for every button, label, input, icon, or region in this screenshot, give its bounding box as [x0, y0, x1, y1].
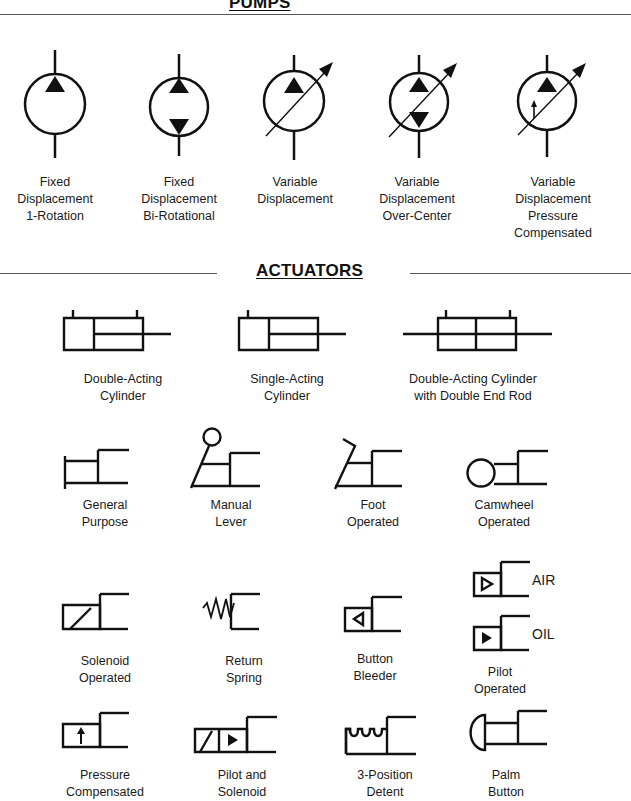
actuators-divider-left — [0, 273, 217, 274]
pump-label: Fixed Displacement 1-Rotation — [0, 174, 110, 225]
manual-lever-icon — [188, 427, 268, 492]
foot-operated-icon — [333, 437, 413, 492]
double-end-rod-cylinder-icon — [400, 306, 560, 356]
palm-button-icon — [468, 710, 558, 755]
operator-label: Pilot Operated — [445, 664, 555, 698]
operator-label: Return Spring — [189, 653, 299, 687]
variable-displacement-pump-icon — [262, 55, 342, 165]
solenoid-icon — [60, 591, 140, 633]
operator-label: Button Bleeder — [320, 651, 430, 685]
cylinder-label: Double-Acting Cylinder with Double End R… — [393, 371, 553, 405]
operator-label: Palm Button — [451, 767, 561, 801]
pilot-operated-oil-icon — [471, 613, 541, 655]
general-purpose-icon — [62, 447, 142, 492]
pressure-compensated-icon — [60, 710, 140, 752]
operator-label: Solenoid Operated — [50, 653, 160, 687]
operator-label: Camwheel Operated — [449, 497, 559, 531]
operator-label: Pressure Compensated — [50, 767, 160, 801]
bidirectional-pump-icon — [144, 54, 224, 164]
return-spring-icon — [201, 591, 271, 633]
actuators-title: ACTUATORS — [256, 261, 363, 281]
cylinder-label: Double-Acting Cylinder — [58, 371, 188, 405]
operator-label: General Purpose — [50, 497, 160, 531]
fixed-displacement-pump-icon — [20, 50, 100, 160]
pump-label: Fixed Displacement Bi-Rotational — [124, 174, 234, 225]
detent-icon — [343, 714, 433, 756]
pumps-divider — [0, 14, 631, 15]
pump-label: Variable Displacement Over-Center — [362, 174, 472, 225]
cylinder-label: Single-Acting Cylinder — [222, 371, 352, 405]
operator-label: Manual Lever — [176, 497, 286, 531]
over-center-pump-icon — [389, 55, 469, 165]
pressure-compensated-pump-icon — [518, 55, 598, 165]
double-acting-cylinder-icon — [60, 306, 180, 356]
oil-label: OIL — [532, 626, 555, 642]
pump-label: Variable Displacement — [240, 174, 350, 208]
pilot-solenoid-icon — [193, 713, 283, 755]
operator-label: 3-Position Detent — [330, 767, 440, 801]
actuators-divider-right — [410, 273, 631, 274]
operator-label: Pilot and Solenoid — [187, 767, 297, 801]
camwheel-icon — [466, 447, 556, 492]
single-acting-cylinder-icon — [236, 306, 356, 356]
pump-label: Variable Displacement Pressure Compensat… — [498, 174, 608, 242]
operator-label: Foot Operated — [318, 497, 428, 531]
button-bleeder-icon — [343, 594, 423, 636]
pumps-title: PUMPS — [229, 0, 290, 13]
air-label: AIR — [532, 572, 555, 588]
pilot-operated-air-icon — [471, 559, 541, 601]
